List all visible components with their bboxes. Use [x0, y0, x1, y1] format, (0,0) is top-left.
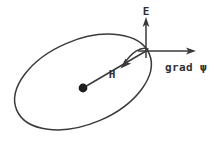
h-vector-label: H: [109, 68, 116, 81]
ellipse-orbit: [0, 15, 165, 144]
diagram-canvas: E H grad ψ: [0, 0, 215, 144]
grad-psi-vector-label: grad ψ: [165, 61, 207, 74]
physics-orbit-diagram: E H grad ψ: [0, 0, 215, 144]
h-vector-arrowhead: [121, 58, 132, 68]
focus-point: [79, 84, 88, 93]
e-vector-label: E: [143, 5, 150, 18]
